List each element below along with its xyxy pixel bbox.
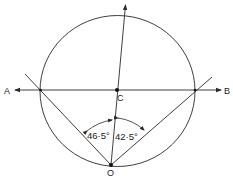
label-o: O <box>107 168 114 178</box>
label-a: A <box>4 86 10 96</box>
angle-arc-right <box>118 118 144 130</box>
line-o-left <box>25 74 111 165</box>
label-b: B <box>224 86 230 96</box>
angle-label-right: 42·5° <box>115 131 138 142</box>
point-right-intersection <box>194 89 197 92</box>
label-c: C <box>117 93 124 103</box>
geometry-diagram: A B C O 46·5° 42·5° <box>0 0 233 178</box>
angle-label-left: 46·5° <box>87 130 110 141</box>
point-o <box>109 163 113 167</box>
point-c <box>115 88 119 92</box>
point-left-intersection <box>39 89 42 92</box>
